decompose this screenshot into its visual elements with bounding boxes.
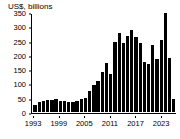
bar <box>88 91 91 112</box>
bar <box>50 100 53 112</box>
bar-series <box>33 14 176 112</box>
bar <box>71 102 74 112</box>
bar <box>59 101 62 112</box>
y-axis-tick-label: 200 <box>13 53 26 61</box>
bar <box>42 101 45 112</box>
x-axis-tick-mark <box>33 116 34 118</box>
bar <box>147 64 150 112</box>
plot-wrapper: 050100150200250300350 199319992005201120… <box>0 14 180 120</box>
x-axis-tick-label: 1999 <box>50 119 67 128</box>
y-axis-tick-label: 350 <box>13 10 26 18</box>
bar <box>105 63 108 112</box>
x-axis-tick-label: 2011 <box>102 119 118 128</box>
x-axis-tick-mark <box>161 116 162 118</box>
bar <box>130 30 133 112</box>
bar <box>84 98 87 112</box>
bar <box>164 13 167 112</box>
bar <box>75 101 78 112</box>
bar-chart-figure: US$, billions 050100150200250300350 1993… <box>0 0 180 139</box>
y-axis-tick-label: 150 <box>13 67 26 75</box>
x-axis-tick-mark <box>110 116 111 118</box>
bar <box>122 43 125 112</box>
x-axis-tick-label: 2017 <box>127 119 144 128</box>
x-axis-tick-mark <box>59 116 60 118</box>
bar <box>143 62 146 112</box>
y-axis-tick-label: 100 <box>13 82 26 90</box>
bar <box>109 74 112 112</box>
bar <box>118 33 121 112</box>
bar <box>80 99 83 112</box>
bar <box>96 81 99 112</box>
y-axis-tick-label: 300 <box>13 25 26 33</box>
y-axis-tick-label: 0 <box>22 110 26 118</box>
x-axis-tick-mark <box>84 116 85 118</box>
bar <box>168 58 171 112</box>
bar <box>63 101 66 112</box>
bar <box>134 37 137 112</box>
bar <box>151 45 154 112</box>
y-axis-tick-label: 50 <box>18 96 26 104</box>
bar <box>155 59 158 112</box>
x-axis-tick-label: 2023 <box>153 119 170 128</box>
bar <box>67 102 70 112</box>
bar <box>160 40 163 112</box>
y-axis-tick-label: 250 <box>13 39 26 47</box>
bar <box>172 99 175 112</box>
bar <box>139 43 142 112</box>
x-axis-tick-label: 1993 <box>25 119 42 128</box>
plot-area <box>31 14 176 114</box>
y-axis-tick-labels: 050100150200250300350 <box>0 14 30 120</box>
x-axis-tick-label: 2005 <box>76 119 93 128</box>
bar <box>46 100 49 112</box>
bar <box>38 102 41 112</box>
bar <box>126 36 129 112</box>
bar <box>92 85 95 112</box>
bar <box>33 105 36 112</box>
x-axis-tick-mark <box>135 116 136 118</box>
bar <box>54 99 57 112</box>
bar <box>101 72 104 112</box>
x-axis-tick-labels: 199319992005201120172023 <box>31 116 176 130</box>
bar <box>113 42 116 112</box>
